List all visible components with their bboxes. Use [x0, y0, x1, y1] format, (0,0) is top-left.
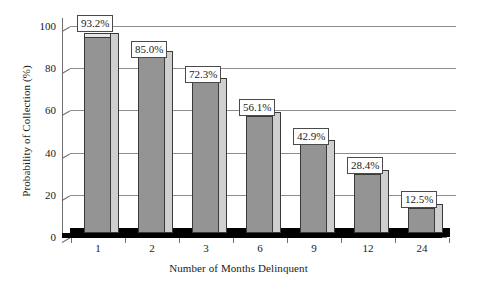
y-tick-label-0: 0	[26, 232, 56, 243]
data-label-2: 85.0%	[131, 41, 167, 58]
x-tick-label-12: 12	[348, 243, 388, 254]
bar-2-side	[164, 51, 173, 233]
bar-6-side	[380, 170, 389, 233]
bar-1-side	[110, 33, 119, 233]
bar-7-front	[408, 208, 435, 233]
bar-5[interactable]	[300, 0, 344, 238]
bar-3-front	[192, 82, 219, 233]
data-label-1: 93.2%	[77, 15, 113, 32]
x-tick-label-24: 24	[402, 243, 442, 254]
data-label-4: 56.1%	[239, 99, 275, 116]
y-axis-line	[62, 18, 63, 238]
bar-6[interactable]	[354, 0, 398, 238]
x-tick-mark-4	[287, 238, 288, 243]
bar-1-front	[84, 37, 111, 233]
x-tick-mark-0	[71, 238, 72, 243]
bar-3-side	[218, 78, 227, 233]
y-tick-label-20: 20	[26, 190, 56, 201]
bar-4-front	[246, 116, 273, 233]
bar-5-front	[300, 144, 327, 233]
bar-7-side	[434, 204, 443, 233]
y-tick-mark-0	[62, 238, 70, 243]
bar-4[interactable]	[246, 0, 290, 238]
plot-area: 100 80 60 40 20 0	[0, 0, 477, 284]
y-tick-label-100: 100	[26, 21, 56, 32]
x-tick-mark-3	[233, 238, 234, 243]
x-tick-mark-5	[341, 238, 342, 243]
data-label-6: 28.4%	[347, 157, 383, 174]
bar-6-front	[354, 174, 381, 233]
y-tick-label-40: 40	[26, 148, 56, 159]
x-tick-label-1: 1	[78, 243, 118, 254]
bar-chart: Probability of Collection (%) Number of …	[0, 0, 477, 284]
x-tick-label-9: 9	[294, 243, 334, 254]
x-tick-mark-2	[179, 238, 180, 243]
x-tick-label-2: 2	[132, 243, 172, 254]
x-tick-label-6: 6	[240, 243, 280, 254]
bar-3[interactable]	[192, 0, 236, 238]
bar-2-front	[138, 55, 165, 233]
y-tick-label-80: 80	[26, 63, 56, 74]
bar-5-side	[326, 140, 335, 233]
bar-2[interactable]	[138, 0, 182, 238]
x-tick-mark-6	[395, 238, 396, 243]
y-tick-label-60: 60	[26, 105, 56, 116]
bar-4-side	[272, 112, 281, 233]
data-label-5: 42.9%	[293, 128, 329, 145]
data-label-7: 12.5%	[401, 191, 437, 208]
bar-1[interactable]	[84, 0, 128, 238]
x-tick-mark-7	[449, 238, 450, 243]
x-tick-label-3: 3	[186, 243, 226, 254]
x-tick-mark-1	[125, 238, 126, 243]
data-label-3: 72.3%	[185, 66, 221, 83]
